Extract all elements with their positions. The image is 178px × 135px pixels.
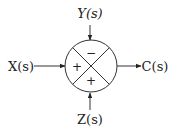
sign-top: − — [86, 46, 96, 60]
output-label-c: C(s) — [142, 59, 169, 74]
sign-left: + — [72, 60, 82, 74]
sign-bottom: + — [86, 74, 96, 88]
summing-junction-diagram: − + + Y(s) X(s) C(s) Z(s) — [0, 0, 178, 135]
input-label-z: Z(s) — [77, 112, 103, 127]
input-label-x: X(s) — [8, 59, 34, 74]
input-label-y: Y(s) — [77, 6, 102, 21]
